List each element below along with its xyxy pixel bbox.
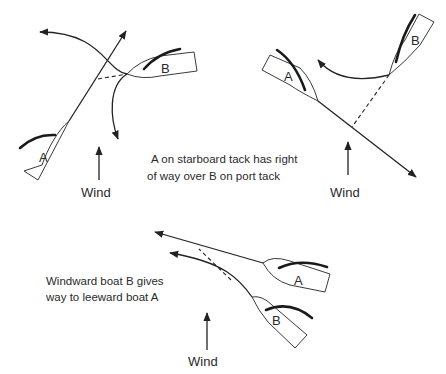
wind-label: Wind [188, 354, 218, 369]
wind-label: Wind [81, 185, 111, 200]
right-of-way-diagram: A B Wind A B Wind A on starboard tack ha… [0, 0, 446, 374]
boat-a-label: A [284, 69, 293, 84]
boat-b-label: B [272, 313, 281, 328]
panel-bottom: A B Wind [155, 232, 330, 369]
boat-b-bear-away-arrow [112, 74, 127, 139]
clearance-dashed-line [352, 75, 389, 127]
windward-rule-caption-line2: way to leeward boat A [45, 291, 159, 303]
boat-b-bear-away-arrow [318, 60, 389, 79]
windward-rule-caption-line1: Windward boat B gives [46, 275, 164, 287]
boat-b-tack-arrow [40, 32, 127, 74]
starboard-rule-caption-line1: A on starboard tack has right [151, 153, 298, 165]
panel-top-right: A B Wind [262, 14, 434, 200]
clearance-dashed-line [199, 249, 231, 280]
boat-a-label: A [294, 273, 303, 288]
boat-b-course-arrow [170, 253, 252, 297]
boat-a-course-arrow [318, 101, 416, 177]
boat-b-label: B [161, 61, 170, 76]
boat-a-label: A [39, 150, 48, 165]
boat-a-course-arrow [69, 31, 126, 121]
wind-label: Wind [330, 185, 360, 200]
boat-b-label: B [411, 33, 420, 48]
starboard-rule-caption-line2: of way over B on port tack [147, 170, 280, 182]
